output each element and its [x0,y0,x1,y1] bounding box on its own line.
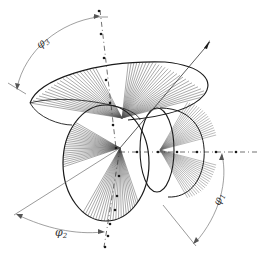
hatch-line [31,148,120,160]
phi3-arc [17,17,98,88]
axis-dot [100,33,103,36]
phi1-arrowhead-bottom [193,237,199,244]
axis-dot [235,151,238,154]
left-cone-hatching [30,103,149,238]
axis-dot [115,147,118,150]
hatch-line [84,67,122,118]
right-narrow-ellipse [140,108,174,192]
arrowhead-icon [204,40,210,49]
axis-dot [157,151,160,154]
hatch-line [36,115,120,148]
axis-dot [116,195,119,198]
vertical-axis-dots [98,10,121,249]
phi2-label: φ2 [55,226,68,240]
vertical-axis [100,10,116,148]
left-ellipse [63,105,149,221]
horizontal-axis-dots [136,151,238,154]
hatch-line [32,148,120,166]
axis-dot [136,151,139,154]
hatch-line [34,122,120,148]
hatch-line [120,148,139,236]
hatch-line [69,75,122,118]
axis-dot [104,246,107,249]
hatch-line [98,148,120,235]
hatch-line [120,148,142,235]
phi2-arrowhead-right [98,229,105,234]
phi1-label: φ1 [210,191,227,207]
lower-right-line [163,205,196,246]
phi1-arrowhead-top [219,153,224,160]
axis-dot [109,223,112,226]
axis-dot [109,102,112,105]
axis-dot [176,151,179,154]
hatch-line [120,148,128,238]
phi3-arrowhead-bottom [15,83,20,90]
hatch-line [33,148,120,170]
hatch-line [120,148,145,234]
hatch-line [160,150,217,168]
axis-dot [196,151,199,154]
axis-dot [105,79,108,82]
euler-angle-diagram: φ3 φ2 φ1 [0,0,258,253]
axis-dot [215,151,218,154]
phi3-label: φ3 [34,33,53,52]
axis-dot [114,209,117,212]
axis-dot [98,10,101,13]
hatch-line [33,125,120,148]
axis-dot [103,57,106,60]
axis-dot [118,175,121,178]
hatch-line [85,148,120,231]
phi2-arrowhead-left [16,214,23,219]
hatch-line [120,148,132,237]
axis-dot [112,124,115,127]
axis-dot [107,235,110,238]
phi3-arrowhead-top [94,14,100,19]
hatch-line [160,132,217,150]
